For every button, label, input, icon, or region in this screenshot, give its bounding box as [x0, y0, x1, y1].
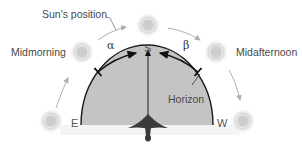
sky-dome — [81, 45, 213, 125]
sun-path-arrow-east — [56, 78, 68, 108]
sun-sunrise-east — [38, 108, 64, 134]
horizon-label: Horizon — [168, 93, 204, 105]
south-label: S — [144, 42, 151, 54]
west-label: W — [217, 117, 228, 129]
alpha-label: α — [107, 39, 115, 52]
sun-path-arrow-west — [229, 70, 240, 100]
sun-midmorning — [69, 39, 95, 65]
sun-position-label: Sun's position — [42, 8, 107, 20]
midafternoon-label: Midafternoon — [236, 46, 297, 58]
sun-noon-south — [135, 12, 161, 38]
sun-position-leader — [106, 17, 116, 30]
east-label: E — [71, 117, 78, 129]
midmorning-label: Midmorning — [11, 46, 66, 58]
sun-midafternoon — [203, 39, 229, 65]
beta-label: β — [183, 39, 189, 52]
sun-compass-diagram: Sun's position Midmorning Midafternoon S… — [0, 0, 302, 150]
sun-sunset-west — [230, 108, 256, 134]
